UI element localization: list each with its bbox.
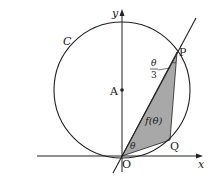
- center-label-a: A: [109, 85, 119, 98]
- y-axis-label: y: [111, 7, 119, 20]
- x-axis-label: x: [198, 158, 205, 171]
- center-point-a: [120, 88, 124, 92]
- circle-label-c: C: [63, 35, 72, 48]
- angle-origin-label: θ: [130, 141, 136, 151]
- area-label-f-theta: f(θ): [144, 115, 163, 126]
- angle-p-denominator: 3: [151, 70, 157, 80]
- angle-p-numerator: θ: [151, 58, 157, 68]
- origin-label: O: [122, 158, 131, 171]
- point-p-label: P: [179, 46, 187, 59]
- y-axis-arrow-icon: [120, 9, 125, 16]
- diagram-canvas: y x C A P Q O θ 3 f(θ) θ: [0, 0, 208, 187]
- point-q-label: Q: [170, 140, 179, 153]
